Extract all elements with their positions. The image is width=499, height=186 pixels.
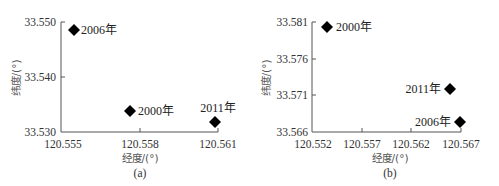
- x-tick-label: 120.555: [44, 138, 82, 150]
- diamond-marker-icon: [209, 116, 221, 128]
- y-tick-label: 33.576: [276, 53, 308, 65]
- point-label: 2000年: [336, 20, 372, 34]
- y-tick-label: 33.550: [24, 16, 56, 28]
- y-axis-label: 纬度/(°): [10, 60, 22, 97]
- y-tick-label: 33.530: [24, 126, 56, 138]
- chart-a: 33.550 33.540 33.530 120.555 120.558 120…: [0, 0, 250, 186]
- y-tick-label: 33.581: [276, 16, 308, 28]
- diamond-marker-icon: [124, 105, 136, 117]
- y-tick-label: 33.566: [276, 126, 308, 138]
- x-tick-label: 120.552: [294, 138, 332, 150]
- x-tick-label: 120.558: [121, 138, 159, 150]
- chart-b: 33.581 33.576 33.571 33.566 120.552 120.…: [250, 0, 499, 186]
- chart-a-plot: 33.550 33.540 33.530 120.555 120.558 120…: [0, 0, 250, 186]
- x-axis-label: 经度/(°): [122, 152, 159, 164]
- diamond-marker-icon: [444, 83, 456, 95]
- y-tick-label: 33.540: [24, 71, 56, 83]
- x-tick-label: 120.562: [392, 138, 430, 150]
- chart-caption: (b): [383, 167, 397, 180]
- x-tick-label: 120.567: [442, 138, 480, 150]
- diamond-marker-icon: [68, 24, 80, 36]
- point-label: 2006年: [81, 23, 117, 37]
- x-tick-label: 120.557: [343, 138, 381, 150]
- y-axis-label: 纬度/(°): [260, 60, 272, 97]
- chart-b-plot: 33.581 33.576 33.571 33.566 120.552 120.…: [250, 0, 499, 186]
- x-axis-label: 经度/(°): [372, 152, 409, 164]
- point-label: 2011年: [200, 101, 236, 115]
- chart-caption: (a): [134, 167, 147, 180]
- point-label: 2011年: [405, 82, 441, 96]
- point-label: 2000年: [138, 104, 174, 118]
- diamond-marker-icon: [454, 116, 466, 128]
- diamond-marker-icon: [321, 21, 333, 33]
- y-tick-label: 33.571: [276, 89, 308, 101]
- x-tick-label: 120.561: [199, 138, 237, 150]
- point-label: 2006年: [415, 115, 451, 129]
